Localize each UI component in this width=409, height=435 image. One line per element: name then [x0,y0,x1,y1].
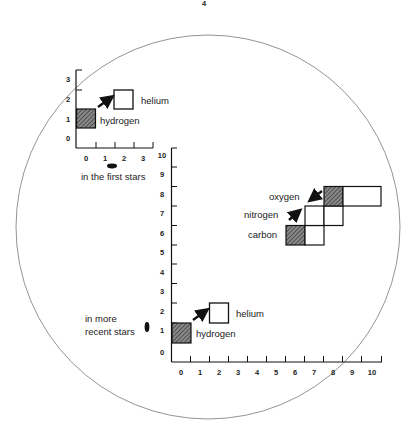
helium-label: helium [141,95,169,106]
isotope-box [305,226,324,246]
helium-box [210,303,229,323]
recent-stars-chart: 10 9 8 7 6 5 4 3 2 1 0 0 1 2 3 4 5 6 7 8… [85,148,382,377]
arrow-icon [313,191,322,198]
x-tick: 8 [331,368,335,377]
isotope-box [343,187,381,207]
x-tick: 3 [141,154,145,163]
carbon-box [286,226,305,246]
first-stars-caption: in the first stars [81,171,146,182]
x-tick: 7 [312,368,316,377]
hydrogen-box [172,323,191,343]
x-tick: 0 [179,368,183,377]
y-tick: 0 [66,134,70,143]
y-tick: 10 [158,151,166,160]
first-stars-chart: 3 2 1 0 0 1 2 3 hydrogen helium in the f… [66,70,169,182]
hydrogen-label: hydrogen [100,115,140,126]
carbon-label: carbon [248,229,277,240]
arrow-icon [289,213,297,220]
nucleosynthesis-diagram: 4 3 2 1 0 0 1 2 3 hydrogen helium in the… [0,0,409,435]
pointer-icon [107,164,117,169]
recent-stars-caption-line1: in more [85,313,117,324]
page-number: 4 [202,0,207,8]
nitrogen-box [305,206,324,226]
oxygen-box [324,187,343,207]
x-tick: 1 [198,368,202,377]
x-tick: 10 [368,368,376,377]
x-tick: 4 [255,368,260,377]
y-tick: 5 [160,248,164,257]
x-tick: 6 [293,368,297,377]
y-tick: 2 [160,307,164,316]
nitrogen-label: nitrogen [244,209,278,220]
hydrogen-box [77,109,96,128]
x-tick: 1 [103,154,107,163]
y-tick: 2 [66,95,70,104]
y-tick: 3 [66,75,70,84]
oxygen-label: oxygen [269,191,300,202]
x-tick: 0 [84,154,88,163]
y-tick: 8 [160,190,164,199]
helium-box [114,90,133,109]
x-tick: 5 [274,368,278,377]
recent-stars-caption-line2: recent stars [85,326,135,337]
y-tick: 1 [66,115,70,124]
arrow-icon [193,312,204,320]
y-tick: 1 [160,326,164,335]
x-tick: 2 [122,154,126,163]
y-tick: 3 [160,287,164,296]
isotope-box [324,206,343,226]
hydrogen-label: hydrogen [196,328,236,339]
pointer-icon [145,322,150,332]
x-tick: 2 [217,368,221,377]
helium-label: helium [236,308,264,319]
y-tick: 7 [160,209,164,218]
x-tick: 3 [236,368,240,377]
y-tick: 6 [160,229,164,238]
x-tick: 9 [350,368,354,377]
y-tick: 9 [160,170,164,179]
y-tick: 4 [160,268,165,277]
y-tick: 0 [160,348,164,357]
arrow-icon [98,99,109,107]
